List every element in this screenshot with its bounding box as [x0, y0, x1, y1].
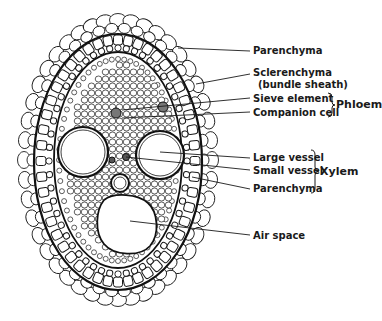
label-parenchyma-outer: Parenchyma — [253, 45, 322, 56]
label-sieve-element: Sieve element — [253, 93, 333, 104]
label-parenchyma-xylem: Parenchyma — [253, 183, 322, 194]
label-small-vessel: Small vessel — [253, 165, 323, 176]
sieve-element-right — [158, 102, 168, 112]
label-bundle-sheath: (bundle sheath) — [258, 79, 348, 90]
label-large-vessel: Large vessel — [253, 152, 324, 163]
air-space — [97, 195, 156, 254]
sieve-element-left — [111, 108, 121, 118]
group-label-phloem: Phloem — [336, 98, 382, 111]
label-companion-cell: Companion cell — [253, 107, 339, 118]
label-air-space: Air space — [253, 230, 305, 241]
group-label-xylem: Xylem — [320, 165, 358, 178]
label-sclerenchyma: Sclerenchyma — [253, 67, 332, 78]
